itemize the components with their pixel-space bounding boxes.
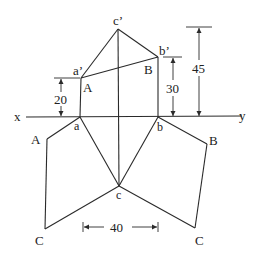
elevation-edge-a-c xyxy=(81,29,118,78)
elevation-edge-c-b xyxy=(118,29,158,57)
label-b-prime: b’ xyxy=(159,43,170,58)
y-label: y xyxy=(239,108,246,123)
label-C-left: C xyxy=(35,233,44,248)
left-edge-A-C xyxy=(45,139,47,229)
plan-edge-b-c xyxy=(119,117,158,186)
right-edge-B-C xyxy=(195,144,207,228)
right-edge-C-c xyxy=(119,186,195,228)
dim-30-value: 30 xyxy=(166,81,179,96)
projection-diagram: x y c’ b’ a’ A B a b c A C B C 20 30 45 xyxy=(0,0,258,256)
label-A-true: A xyxy=(83,80,93,95)
label-b-plan: b xyxy=(157,120,163,134)
dim-20-value: 20 xyxy=(54,92,67,107)
label-c-prime: c’ xyxy=(113,13,123,28)
label-a-prime: a’ xyxy=(73,63,83,78)
label-B-true: B xyxy=(144,62,153,77)
projector-a xyxy=(80,78,81,117)
left-edge-C-c xyxy=(45,186,119,229)
label-c-plan: c xyxy=(116,188,121,202)
label-A-left: A xyxy=(31,132,41,147)
dim-40-value: 40 xyxy=(110,220,123,235)
plan-edge-a-c xyxy=(80,117,119,186)
xy-reference-line xyxy=(26,116,242,117)
dim-45-value: 45 xyxy=(192,61,205,76)
right-edge-b-B xyxy=(158,117,207,144)
label-a-plan: a xyxy=(74,119,80,133)
projector-c xyxy=(118,29,119,186)
x-label: x xyxy=(14,109,21,124)
label-C-right: C xyxy=(195,233,204,248)
label-B-right: B xyxy=(209,133,218,148)
